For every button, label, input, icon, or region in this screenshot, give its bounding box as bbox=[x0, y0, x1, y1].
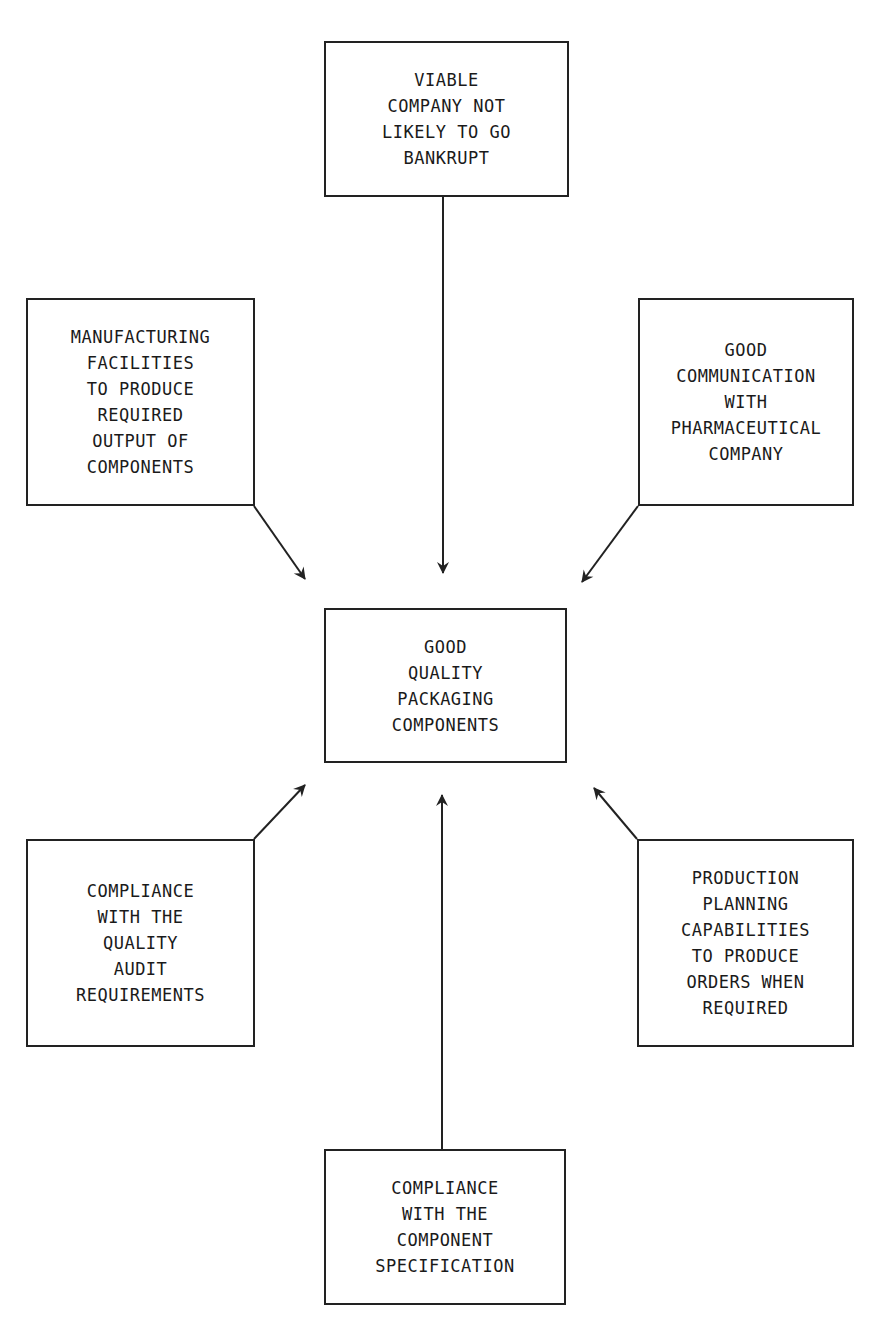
box-text-line: REQUIREMENTS bbox=[76, 982, 205, 1008]
box-text-line: COMPLIANCE bbox=[87, 878, 194, 904]
box-text-line: PLANNING bbox=[703, 891, 789, 917]
box-text-line: ORDERS WHEN bbox=[686, 969, 804, 995]
box-text-line: VIABLE bbox=[414, 67, 478, 93]
center-box-good-quality-packaging-components: GOOD QUALITY PACKAGING COMPONENTS bbox=[324, 608, 567, 763]
box-text-line: SPECIFICATION bbox=[375, 1253, 515, 1279]
box-text-line: COMPLIANCE bbox=[391, 1175, 498, 1201]
box-production-planning: PRODUCTION PLANNING CAPABILITIES TO PROD… bbox=[637, 839, 854, 1047]
box-text-line: WITH bbox=[725, 389, 768, 415]
box-text-line: GOOD bbox=[725, 337, 768, 363]
arrow-lower-right-to-center bbox=[594, 788, 637, 839]
box-text-line: COMPONENTS bbox=[87, 454, 194, 480]
box-text-line: PRODUCTION bbox=[692, 865, 799, 891]
box-text-line: PHARMACEUTICAL bbox=[671, 415, 821, 441]
box-text-line: OUTPUT OF bbox=[92, 428, 189, 454]
box-text-line: COMMUNICATION bbox=[676, 363, 816, 389]
box-text-line: MANUFACTURING bbox=[71, 324, 211, 350]
arrow-lower-left-to-center bbox=[254, 785, 305, 839]
box-text-line: AUDIT bbox=[114, 956, 168, 982]
arrow-upper-right-to-center bbox=[582, 506, 638, 582]
box-text-line: FACILITIES bbox=[87, 350, 194, 376]
box-text-line: BANKRUPT bbox=[404, 145, 490, 171]
box-text-line: REQUIRED bbox=[98, 402, 184, 428]
box-text-line: COMPONENTS bbox=[392, 712, 499, 738]
box-quality-audit-compliance: COMPLIANCE WITH THE QUALITY AUDIT REQUIR… bbox=[26, 839, 255, 1047]
box-text-line: WITH THE bbox=[402, 1201, 488, 1227]
box-component-specification-compliance: COMPLIANCE WITH THE COMPONENT SPECIFICAT… bbox=[324, 1149, 566, 1305]
box-text-line: PACKAGING bbox=[397, 686, 494, 712]
box-text-line: CAPABILITIES bbox=[681, 917, 810, 943]
box-text-line: QUALITY bbox=[103, 930, 178, 956]
box-text-line: TO PRODUCE bbox=[87, 376, 194, 402]
box-text-line: COMPONENT bbox=[397, 1227, 494, 1253]
arrow-upper-left-to-center bbox=[254, 506, 305, 579]
box-text-line: COMPANY NOT bbox=[387, 93, 505, 119]
box-text-line: TO PRODUCE bbox=[692, 943, 799, 969]
box-text-line: GOOD bbox=[424, 634, 467, 660]
box-text-line: LIKELY TO GO bbox=[382, 119, 511, 145]
box-text-line: QUALITY bbox=[408, 660, 483, 686]
box-manufacturing-facilities: MANUFACTURING FACILITIES TO PRODUCE REQU… bbox=[26, 298, 255, 506]
box-good-communication: GOOD COMMUNICATION WITH PHARMACEUTICAL C… bbox=[638, 298, 854, 506]
box-text-line: WITH THE bbox=[98, 904, 184, 930]
box-viable-company: VIABLE COMPANY NOT LIKELY TO GO BANKRUPT bbox=[324, 41, 569, 197]
box-text-line: COMPANY bbox=[708, 441, 783, 467]
diagram-canvas: GOOD QUALITY PACKAGING COMPONENTS VIABLE… bbox=[0, 0, 872, 1320]
box-text-line: REQUIRED bbox=[703, 995, 789, 1021]
